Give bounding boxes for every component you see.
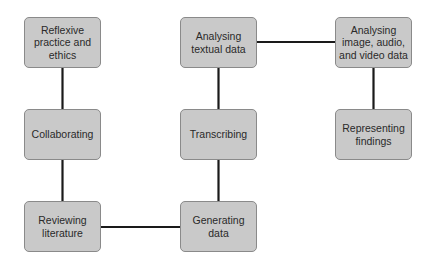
- node-representing-findings: Representing findings: [335, 109, 412, 160]
- node-reflexive-practice-and-ethics: Reflexive practice and ethics: [24, 17, 101, 68]
- node-label: Reviewing literature: [28, 214, 97, 239]
- node-collaborating: Collaborating: [24, 109, 101, 160]
- node-label: Generating data: [184, 214, 253, 239]
- node-label: Reflexive practice and ethics: [28, 24, 97, 62]
- node-analysing-textual-data: Analysing textual data: [180, 17, 257, 68]
- node-analysing-image-audio-video-data: Analysing image, audio, and video data: [335, 17, 412, 68]
- node-label: Transcribing: [190, 128, 247, 141]
- node-label: Analysing image, audio, and video data: [339, 24, 408, 62]
- node-transcribing: Transcribing: [180, 109, 257, 160]
- node-reviewing-literature: Reviewing literature: [24, 201, 101, 252]
- node-label: Representing findings: [339, 122, 408, 147]
- node-generating-data: Generating data: [180, 201, 257, 252]
- node-label: Analysing textual data: [184, 30, 253, 55]
- node-label: Collaborating: [32, 128, 94, 141]
